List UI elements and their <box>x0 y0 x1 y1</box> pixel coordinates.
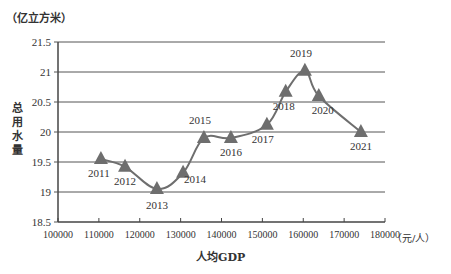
x-tick-label: 150000 <box>247 229 277 240</box>
point-label: 2021 <box>350 140 372 152</box>
point-label: 2014 <box>184 173 207 185</box>
point-labels: 2011201220132014201520162017201820192020… <box>88 47 372 211</box>
y-tick-label: 21 <box>40 66 51 78</box>
x-tick-label: 140000 <box>207 229 237 240</box>
y-tick-label: 21.5 <box>32 36 52 48</box>
y-tick-label: 18.5 <box>32 216 52 228</box>
point-label: 2013 <box>146 199 169 211</box>
point-label: 2017 <box>252 133 275 145</box>
point-label: 2012 <box>114 175 136 187</box>
x-tick-label: 160000 <box>288 229 318 240</box>
y-axis-ticks: 18.51919.52020.52121.5 <box>32 36 58 228</box>
x-tick-label: 180000 <box>370 229 400 240</box>
triangle-marker-icon <box>94 151 108 164</box>
point-label: 2011 <box>88 167 110 179</box>
line-chart: 18.51919.52020.52121.5 10000011000012000… <box>0 0 451 274</box>
point-label: 2019 <box>290 47 313 59</box>
point-label: 2015 <box>189 114 212 126</box>
x-tick-label: 120000 <box>125 229 155 240</box>
y-tick-label: 19 <box>40 186 52 198</box>
y-tick-label: 19.5 <box>32 156 52 168</box>
x-tick-label: 170000 <box>329 229 359 240</box>
y-tick-label: 20 <box>40 126 52 138</box>
triangle-marker-icon <box>354 124 368 137</box>
series-line <box>101 71 361 189</box>
point-label: 2018 <box>273 100 296 112</box>
point-label: 2020 <box>312 104 335 116</box>
point-label: 2016 <box>220 146 243 158</box>
x-tick-label: 110000 <box>84 229 114 240</box>
triangle-marker-icon <box>298 63 312 76</box>
y-tick-label: 20.5 <box>32 96 52 108</box>
x-tick-label: 130000 <box>166 229 196 240</box>
x-tick-label: 100000 <box>43 229 73 240</box>
